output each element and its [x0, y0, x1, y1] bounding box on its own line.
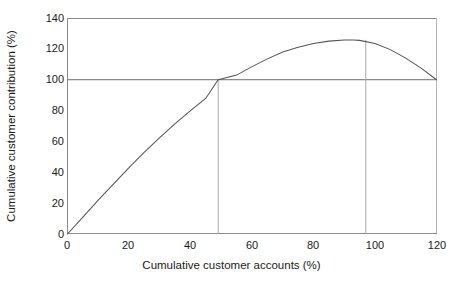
x-axis-title: Cumulative customer accounts (%) — [0, 259, 463, 271]
xtick-label-100: 100 — [355, 240, 395, 251]
contribution-curve — [68, 40, 437, 234]
chart-figure: 140 120 100 80 60 40 20 0 0 20 40 60 80 … — [0, 0, 463, 281]
ytick-label-0: 0 — [30, 229, 64, 240]
xtick-label-80: 80 — [293, 240, 333, 251]
ytick-label-40: 40 — [30, 167, 64, 178]
y-axis-title: Cumulative customer contribution (%) — [5, 30, 17, 222]
xtick-label-0: 0 — [47, 240, 87, 251]
xtick-label-60: 60 — [232, 240, 272, 251]
ytick-label-100: 100 — [30, 74, 64, 85]
ytick-label-80: 80 — [30, 105, 64, 116]
ytick-label-20: 20 — [30, 198, 64, 209]
ytick-label-140: 140 — [30, 13, 64, 24]
reference-lines — [68, 40, 437, 234]
axes-frame — [67, 18, 437, 234]
xtick-label-20: 20 — [108, 240, 148, 251]
y-axis-title-wrapper: Cumulative customer contribution (%) — [2, 18, 20, 234]
xtick-label-40: 40 — [170, 240, 210, 251]
ytick-label-60: 60 — [30, 136, 64, 147]
ytick-label-120: 120 — [30, 43, 64, 54]
xtick-label-120: 120 — [417, 240, 457, 251]
